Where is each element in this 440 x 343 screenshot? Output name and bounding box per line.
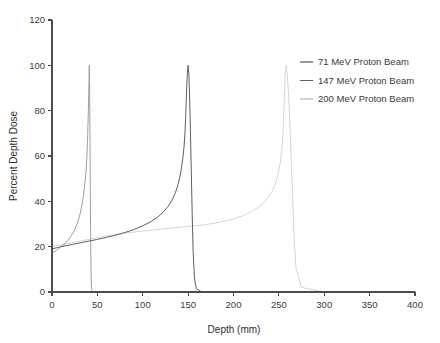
legend-item-label: 71 MeV Proton Beam	[318, 56, 409, 67]
y-axis-title: Percent Depth Dose	[8, 111, 19, 201]
y-tick-label: 80	[34, 105, 45, 116]
y-tick-label: 20	[34, 241, 45, 252]
x-tick-label: 250	[271, 299, 287, 310]
x-tick-label: 150	[180, 299, 196, 310]
x-tick-label: 0	[49, 299, 54, 310]
y-tick-label: 60	[34, 150, 45, 161]
y-tick-label: 0	[40, 286, 45, 297]
x-tick-label: 50	[92, 299, 103, 310]
y-tick-label: 40	[34, 196, 45, 207]
y-tick-label: 100	[29, 60, 45, 71]
x-tick-label: 200	[226, 299, 242, 310]
legend-item-label: 147 MeV Proton Beam	[318, 75, 414, 86]
x-axis-title: Depth (mm)	[208, 324, 261, 335]
x-tick-label: 300	[316, 299, 332, 310]
y-tick-label: 120	[29, 14, 45, 25]
x-tick-label: 400	[407, 299, 423, 310]
proton-depth-dose-chart: 020406080100120050100150200250300350400 …	[0, 0, 440, 343]
chart-legend: 71 MeV Proton Beam147 MeV Proton Beam200…	[300, 56, 414, 104]
x-tick-label: 100	[135, 299, 151, 310]
legend-item-label: 200 MeV Proton Beam	[318, 93, 414, 104]
chart-svg: 020406080100120050100150200250300350400 …	[0, 0, 440, 343]
x-tick-label: 350	[362, 299, 378, 310]
